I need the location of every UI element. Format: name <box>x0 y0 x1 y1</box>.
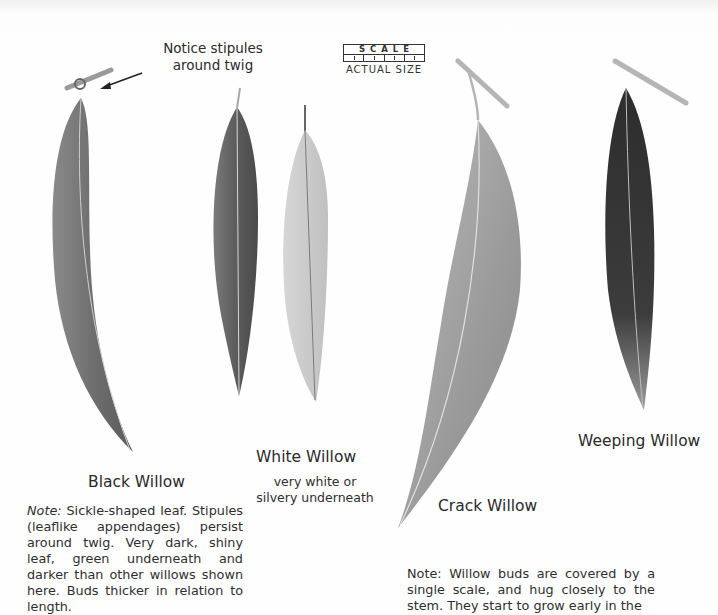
note-prefix: Note: <box>27 503 62 518</box>
white-willow-sub-line-1: very white or <box>256 474 374 490</box>
black-willow-caption: Black Willow <box>88 473 185 491</box>
crack-willow-caption: Crack Willow <box>438 497 537 515</box>
buds-note: Note: Willow buds are covered by a singl… <box>407 566 655 614</box>
white-willow-sub-line-2: silvery underneath <box>256 490 374 506</box>
weeping-willow-caption: Weeping Willow <box>578 432 700 450</box>
note-body: Sickle-shaped leaf. Stipules (leaflike a… <box>27 503 243 614</box>
white-willow-subcaption: very white or silvery underneath <box>256 474 374 506</box>
white-willow-caption: White Willow <box>256 448 356 466</box>
black-willow-note: Note: Sickle-shaped leaf. Stipules (leaf… <box>27 503 243 615</box>
